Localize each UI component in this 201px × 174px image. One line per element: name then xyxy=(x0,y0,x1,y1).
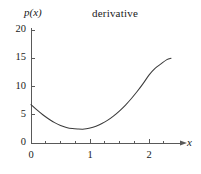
y-tick-label: 15 xyxy=(4,51,26,62)
y-tick-label: 0 xyxy=(4,136,26,147)
y-tick-label: 5 xyxy=(4,108,26,119)
data-curve xyxy=(31,58,171,129)
y-axis xyxy=(31,28,35,143)
y-tick-label: 20 xyxy=(4,23,26,34)
x-tick-label: 2 xyxy=(140,149,158,160)
x-tick-label: 0 xyxy=(22,149,40,160)
x-axis xyxy=(31,139,187,146)
x-tick-label: 1 xyxy=(81,149,99,160)
plot-canvas xyxy=(0,0,201,174)
y-tick-label: 10 xyxy=(4,80,26,91)
derivative-plot-figure: derivative p(x) x 05101520 012 xyxy=(0,0,201,174)
